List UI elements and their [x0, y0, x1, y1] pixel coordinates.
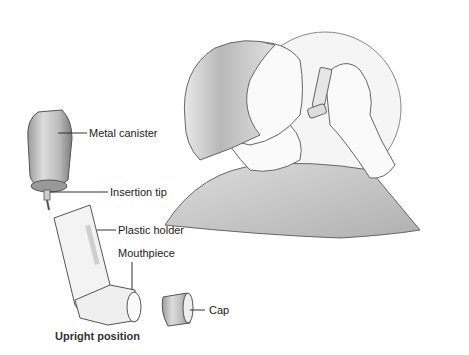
label-cap: Cap — [209, 304, 229, 316]
label-plastic-holder: Plastic holder — [118, 224, 184, 236]
label-mouthpiece: Mouthpiece — [118, 247, 175, 259]
label-insertion-tip: Insertion tip — [110, 186, 167, 198]
label-metal-canister: Metal canister — [89, 127, 157, 139]
metal-canister — [28, 110, 72, 210]
figure-caption: Upright position — [55, 330, 140, 342]
inhaler-illustration — [0, 0, 469, 355]
cap — [162, 293, 193, 326]
